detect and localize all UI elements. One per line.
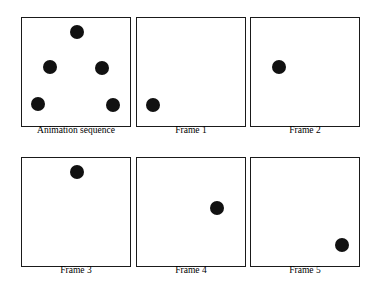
dot-frame-3 (70, 165, 84, 179)
panel-label-frame-2: Frame 2 (250, 126, 360, 136)
panel-frame-box (250, 17, 360, 127)
dot-frame-1-position (31, 97, 45, 111)
panel-frame-box (136, 157, 246, 267)
animation-sequence-figure: Animation sequenceFrame 1Frame 2Frame 3F… (0, 0, 375, 294)
dot-frame-4-position (95, 61, 109, 75)
dot-frame-4 (210, 201, 224, 215)
panel-label-frame-4: Frame 4 (136, 266, 246, 276)
panel-label-animation-sequence: Animation sequence (21, 126, 131, 136)
panel-frame-box (136, 17, 246, 127)
panel-frame-1: Frame 1 (136, 17, 246, 140)
panel-label-frame-1: Frame 1 (136, 126, 246, 136)
panel-frame-5: Frame 5 (250, 157, 360, 280)
dot-frame-2 (272, 60, 286, 74)
dot-frame-1 (146, 98, 160, 112)
panel-animation-sequence: Animation sequence (21, 17, 131, 140)
panel-frame-4: Frame 4 (136, 157, 246, 280)
panel-frame-2: Frame 2 (250, 17, 360, 140)
dot-frame-3-position (70, 25, 84, 39)
panel-frame-3: Frame 3 (21, 157, 131, 280)
dot-frame-5 (335, 238, 349, 252)
panel-label-frame-3: Frame 3 (21, 266, 131, 276)
panel-label-frame-5: Frame 5 (250, 266, 360, 276)
panel-frame-box (21, 157, 131, 267)
dot-frame-5-position (106, 98, 120, 112)
panel-frame-box (21, 17, 131, 127)
dot-frame-2-position (43, 60, 57, 74)
panel-frame-box (250, 157, 360, 267)
